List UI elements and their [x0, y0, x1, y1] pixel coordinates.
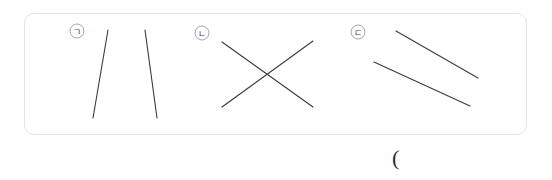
group-a-line-2 — [145, 30, 157, 118]
group-a: ㄱ — [70, 24, 157, 118]
group-a-label: ㄱ — [73, 27, 81, 37]
group-b: ㄴ — [195, 26, 313, 107]
group-b-label: ㄴ — [198, 29, 206, 39]
caption-text: ( — [392, 147, 399, 169]
group-c: ㄷ — [351, 25, 478, 106]
group-c-line-2 — [374, 62, 470, 106]
diagram-canvas: ㄱ ㄴ ㄷ — [0, 0, 552, 180]
figure-root: ㄱ ㄴ ㄷ ( — [0, 0, 552, 180]
group-c-line-1 — [396, 31, 478, 78]
group-a-line-1 — [93, 30, 108, 118]
group-c-label: ㄷ — [354, 28, 362, 38]
